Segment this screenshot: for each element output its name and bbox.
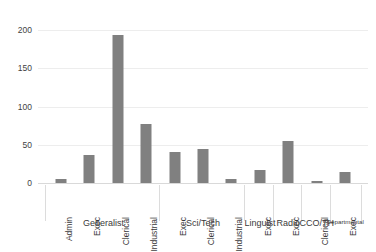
- group-label: Linguist: [244, 219, 275, 228]
- bar: [141, 124, 152, 183]
- x-axis-group-labels: GeneralistSci/TechLinguistRadioCCO/THDep…: [38, 219, 368, 237]
- x-axis-category-labels: AdminExecClericalIndustrialExecClericalI…: [38, 185, 368, 218]
- plot-area: [38, 24, 368, 184]
- bar: [254, 170, 265, 183]
- y-tick-label: 200: [0, 26, 32, 35]
- bar: [112, 35, 123, 183]
- bar: [226, 179, 237, 183]
- bar: [311, 181, 322, 183]
- bar: [283, 141, 294, 183]
- y-tick-label: 50: [0, 141, 32, 150]
- bar: [84, 155, 95, 183]
- bar: [198, 149, 209, 183]
- bars-layer: [38, 24, 368, 184]
- y-tick-label: 100: [0, 102, 32, 111]
- bar: [169, 152, 180, 183]
- group-label: Sci/Tech: [186, 219, 220, 228]
- bar: [55, 179, 66, 183]
- group-label: Departmental: [327, 219, 364, 225]
- group-label: Generalist: [83, 219, 124, 228]
- y-tick-label: 150: [0, 64, 32, 73]
- bar: [340, 172, 351, 183]
- y-tick-label: 0: [0, 179, 32, 188]
- group-label: Radio: [277, 219, 301, 228]
